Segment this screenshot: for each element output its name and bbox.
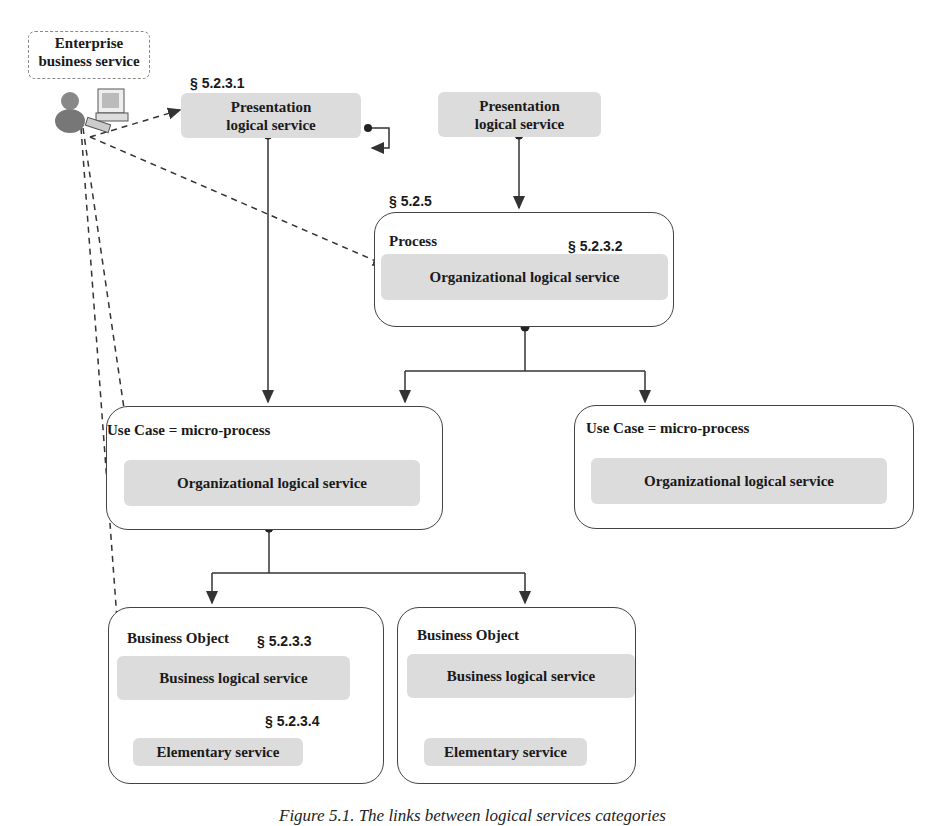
enterprise-business-service-label: Enterprise business service: [28, 31, 150, 79]
service-label: logical service: [226, 116, 316, 134]
organizational-logical-service-use-case-left: Organizational logical service: [124, 460, 420, 506]
business-object-label-right: Business Object: [417, 627, 519, 644]
process-label: Process: [389, 233, 437, 250]
presentation-logical-service-left: Presentation logical service: [181, 93, 361, 138]
organizational-logical-service-use-case-right: Organizational logical service: [591, 458, 887, 504]
figure-caption: Figure 5.1. The links between logical se…: [0, 806, 945, 826]
use-case-label-right: Use Case = micro-process: [586, 420, 749, 437]
elementary-service-left: Elementary service: [133, 738, 303, 766]
service-label: Presentation: [479, 97, 560, 115]
actor-label-line2: business service: [29, 52, 149, 70]
service-label: Presentation: [231, 98, 312, 116]
use-case-label-left: Use Case = micro-process: [107, 422, 270, 439]
section-organizational: § 5.2.3.2: [568, 238, 623, 254]
service-label: logical service: [475, 115, 565, 133]
business-logical-service-left: Business logical service: [117, 656, 350, 700]
business-logical-service-right: Business logical service: [407, 654, 635, 698]
section-presentation: § 5.2.3.1: [190, 75, 245, 91]
actor-label-line1: Enterprise: [29, 34, 149, 52]
presentation-logical-service-right: Presentation logical service: [438, 92, 601, 137]
organizational-logical-service-process: Organizational logical service: [381, 254, 668, 300]
section-business: § 5.2.3.3: [257, 633, 312, 649]
elementary-service-right: Elementary service: [424, 738, 587, 766]
user-with-computer-icon: [52, 83, 138, 135]
section-elementary: § 5.2.3.4: [265, 713, 320, 729]
business-object-label-left: Business Object: [127, 630, 229, 647]
section-process: § 5.2.5: [389, 193, 432, 209]
